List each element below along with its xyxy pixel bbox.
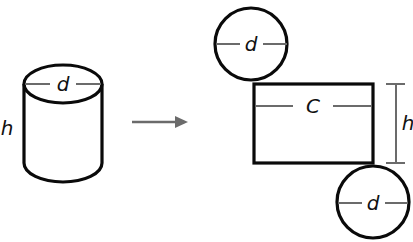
cylinder-diameter-label: d [57,72,70,96]
cylinder: d h [1,65,102,182]
arrow-icon [132,116,188,128]
bottom-circle-diameter-label: d [367,191,380,215]
net-rectangle: C [254,84,373,163]
top-circle-diameter-label: d [245,32,258,56]
height-bracket: h [386,84,413,163]
net-bottom-circle: d [337,166,409,238]
rectangle-height-label: h [402,111,413,135]
cylinder-net-diagram: d h d C h d [0,0,413,242]
cylinder-height-label: h [1,116,14,140]
net-top-circle: d [215,8,287,80]
rectangle-width-label: C [306,94,320,118]
